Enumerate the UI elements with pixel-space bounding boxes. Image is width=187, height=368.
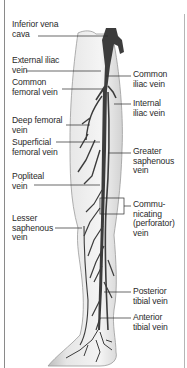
label-inferior-vena-cava: Inferior vena cava (12, 20, 58, 39)
label-popliteal-vein: Popliteal vein (12, 172, 44, 191)
label-common-iliac-vein: Common iliac vein (133, 70, 167, 89)
label-deep-femoral-vein: Deep femoral vein (12, 116, 62, 135)
label-anterior-tibial-vein: Anterior tibial vein (133, 313, 168, 332)
leg-veins-diagram: Inferior vena cava External iliac vein C… (0, 0, 187, 368)
leg-outline (48, 31, 122, 366)
label-internal-iliac-vein: Internal iliac vein (133, 99, 165, 118)
label-posterior-tibial-vein: Posterior tibial vein (133, 287, 168, 306)
label-communicating-perforator-vein: Commu- nicating (perforator) vein (133, 200, 175, 238)
label-greater-saphenous-vein: Greater saphenous vein (133, 147, 174, 176)
label-lesser-saphenous-vein: Lesser saphenous vein (12, 214, 53, 243)
label-external-iliac-vein: External iliac vein (12, 56, 59, 75)
label-common-femoral-vein: Common femoral vein (12, 78, 58, 97)
label-superficial-femoral-vein: Superficial femoral vein (12, 138, 58, 157)
